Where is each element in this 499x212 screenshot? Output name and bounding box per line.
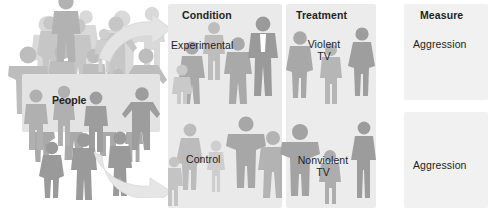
condition-heading: Condition [182, 10, 232, 22]
measure-level-aggression-bottom: Aggression [413, 160, 467, 172]
condition-level-control: Control [186, 154, 221, 166]
treatment-level-nonviolent-tv: Nonviolent TV [288, 155, 358, 179]
measure-level-aggression-top: Aggression [413, 39, 467, 51]
people-label: People [52, 95, 86, 107]
diagram-canvas: People [0, 0, 499, 212]
treatment-level-violent-tv: Violent TV [297, 39, 351, 63]
condition-level-experimental: Experimental [171, 40, 233, 52]
measure-heading: Measure [420, 10, 463, 22]
treatment-heading: Treatment [296, 10, 347, 22]
arrow-to-experimental-icon [96, 12, 174, 68]
arrow-to-control-icon [92, 148, 176, 202]
